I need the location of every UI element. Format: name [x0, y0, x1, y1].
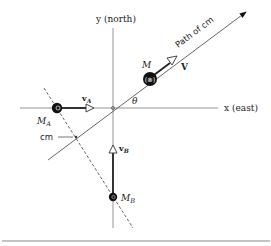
- mass-a: [52, 103, 62, 113]
- x-axis-label: x (east): [224, 103, 258, 113]
- collision-diagram: (⊗) y (north) x (east) θ MA vA MB vB M V…: [0, 0, 271, 246]
- path-of-cm-line: [48, 12, 246, 160]
- angle-theta-label: θ: [132, 96, 138, 106]
- y-axis-label: y (north): [95, 14, 136, 24]
- mass-a-label: MA: [36, 116, 51, 128]
- velocity-a-arrowhead-icon: [86, 104, 94, 112]
- mass-b: [109, 193, 117, 201]
- mass-b-label: MB: [120, 193, 135, 205]
- cm-label: cm: [40, 132, 53, 142]
- velocity-total-label: V: [180, 62, 189, 72]
- path-of-cm-label: Path of cm: [173, 14, 215, 49]
- mass-total: (⊗): [143, 72, 157, 86]
- mass-total-label: M: [141, 60, 152, 70]
- cm-point: [75, 136, 77, 138]
- velocity-total-line: [154, 63, 170, 75]
- velocity-b-label: vB: [118, 143, 129, 154]
- svg-text:(⊗): (⊗): [145, 76, 156, 84]
- velocity-a-label: vA: [81, 93, 92, 104]
- velocity-b-arrowhead-icon: [109, 145, 117, 153]
